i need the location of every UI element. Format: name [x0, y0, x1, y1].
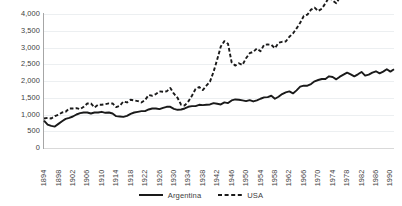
y-tick-label: 2,500 [2, 61, 40, 68]
chart-legend: ArgentinaUSA [0, 186, 402, 204]
x-tick-label: 1930 [170, 169, 177, 186]
x-tick-label: 1982 [357, 169, 364, 186]
x-tick-label: 1894 [40, 169, 47, 186]
x-tick-label: 1970 [314, 169, 321, 186]
x-tick-label: 1946 [227, 169, 234, 186]
x-tick-label: 1978 [343, 169, 350, 186]
y-tick-label: 1,500 [2, 94, 40, 101]
x-tick-label: 1942 [213, 169, 220, 186]
legend-label: Argentina [168, 191, 201, 200]
x-tick-label: 1938 [199, 169, 206, 186]
plot-area [44, 14, 394, 148]
x-tick-label: 1954 [256, 169, 263, 186]
y-tick-label: 3,000 [2, 44, 40, 51]
legend-item-argentina[interactable]: Argentina [139, 191, 201, 200]
series-lines [44, 14, 394, 148]
x-tick-label: 1926 [155, 169, 162, 186]
x-tick-label: 1902 [69, 169, 76, 186]
x-tick-label: 1918 [126, 169, 133, 186]
legend-label: USA [247, 191, 263, 200]
gdp-line-chart: 4,0003,5003,0002,5002,0001,5001,0005000 … [0, 0, 402, 206]
x-tick-label: 1910 [98, 169, 105, 186]
legend-swatch-dashed [218, 191, 242, 199]
y-axis-labels: 4,0003,5003,0002,5002,0001,5001,0005000 [0, 0, 40, 206]
y-tick-label: 3,500 [2, 27, 40, 34]
y-tick-label: 500 [2, 128, 40, 135]
x-tick-label: 1950 [242, 169, 249, 186]
gridline [44, 148, 394, 149]
x-tick-label: 1962 [285, 169, 292, 186]
y-tick-label: 1,000 [2, 111, 40, 118]
x-tick-label: 1986 [372, 169, 379, 186]
x-axis-labels: 1894189819021906191019141918192219261930… [44, 150, 394, 186]
x-tick-label: 1990 [386, 169, 393, 186]
x-tick-label: 1974 [328, 169, 335, 186]
x-tick-label: 1934 [184, 169, 191, 186]
series-line-usa [44, 0, 394, 119]
legend-swatch-solid [139, 191, 163, 199]
legend-item-usa[interactable]: USA [218, 191, 263, 200]
y-tick-label: 0 [2, 144, 40, 151]
x-tick-label: 1914 [112, 169, 119, 186]
x-tick-label: 1898 [54, 169, 61, 186]
x-tick-label: 1906 [83, 169, 90, 186]
x-tick-label: 1958 [271, 169, 278, 186]
y-tick-label: 2,000 [2, 77, 40, 84]
y-tick-label: 4,000 [2, 10, 40, 17]
x-tick-label: 1966 [300, 169, 307, 186]
series-line-argentina [44, 69, 394, 126]
x-tick-label: 1922 [141, 169, 148, 186]
